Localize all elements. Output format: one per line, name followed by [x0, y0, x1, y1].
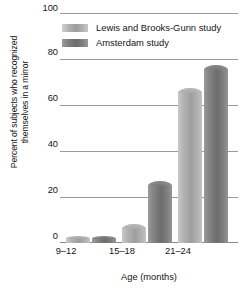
bar-body [92, 239, 116, 243]
legend-label: Amsterdam study [96, 38, 169, 48]
y-tick-label-40: 40 [32, 140, 58, 149]
x-tick-label-21-24: 21–24 [143, 246, 213, 256]
bar-amsterdam-21-24[interactable] [204, 65, 228, 243]
bar-body [178, 93, 202, 243]
bar-body [148, 186, 172, 243]
y-tick-label-60: 60 [32, 94, 58, 103]
bar-lewis-15-18[interactable] [122, 224, 146, 243]
y-tick-label-100: 100 [32, 4, 58, 13]
y-tick-label-80: 80 [32, 48, 58, 57]
bar-amsterdam-15-18[interactable] [148, 181, 172, 243]
legend-label: Lewis and Brooks-Gunn study [96, 23, 221, 33]
legend-item-lewis[interactable]: Lewis and Brooks-Gunn study [62, 21, 221, 34]
bar-amsterdam-9-12[interactable] [92, 236, 116, 243]
bar-body [122, 229, 146, 243]
bar-body [204, 70, 228, 243]
legend-swatch-icon [62, 39, 88, 47]
y-tick-label-20: 20 [32, 186, 58, 195]
chart-legend: Lewis and Brooks-Gunn study Amsterdam st… [62, 21, 221, 51]
x-axis-title: Age (months) [60, 272, 238, 282]
y-tick-label-0: 0 [32, 232, 58, 241]
bar-chart: Percent of subjects who recognized thems… [0, 0, 242, 292]
bar-lewis-21-24[interactable] [178, 88, 202, 243]
bar-body [66, 239, 90, 243]
legend-swatch-icon [62, 24, 88, 32]
bar-lewis-9-12[interactable] [66, 236, 90, 243]
legend-item-amsterdam[interactable]: Amsterdam study [62, 36, 221, 49]
